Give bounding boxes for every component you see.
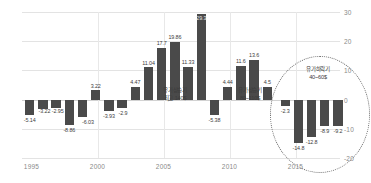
gridline-30 xyxy=(22,12,340,13)
y-axis-tick-minus10: -10 xyxy=(344,125,354,132)
gridline-10 xyxy=(22,70,340,71)
bar-2017 xyxy=(333,100,342,127)
bar-label-2000: -3.93 xyxy=(103,113,115,119)
bar-2012 xyxy=(263,87,272,100)
bar-label-2002: 4.47 xyxy=(130,79,140,85)
bar-label-1996: -2.95 xyxy=(52,108,64,114)
annotation-oil-rise-range-line1: 유가상승기 xyxy=(238,86,262,94)
annotation-oil-rise-peak-line2: 최고 140$ xyxy=(163,94,187,102)
bar-label-1999: 3.22 xyxy=(91,83,101,89)
bar-2008 xyxy=(210,100,219,116)
bar-label-2006: 11.33 xyxy=(182,59,195,65)
bar-label-2001: -2.9 xyxy=(119,110,128,116)
bar-label-2017: -9.2 xyxy=(334,128,343,134)
y-axis-tick-30: 30 xyxy=(344,9,352,16)
bar-2001 xyxy=(117,100,126,109)
bar-label-2015: -12.8 xyxy=(306,139,318,145)
y-axis-tick-minus20: -20 xyxy=(344,155,354,162)
bar-label-2012: 4.5 xyxy=(264,79,271,85)
bar-label-2016: -8.9 xyxy=(320,128,329,134)
bar-1997 xyxy=(65,100,74,126)
bar-2014 xyxy=(294,100,303,143)
y-axis-tick-10: 10 xyxy=(344,67,352,74)
bar-label-2004: 17.7 xyxy=(157,40,167,46)
gridline-20 xyxy=(22,41,340,42)
bar-2002 xyxy=(131,87,140,100)
annotation-oil-rise-peak-line1: 유가상승기 xyxy=(163,86,187,94)
gridline-minus20 xyxy=(22,158,340,159)
bar-label-2014: -14.8 xyxy=(292,145,304,151)
bar-label-2008: -5.38 xyxy=(209,117,221,123)
x-axis-tick-2015: 2015 xyxy=(288,163,303,170)
bar-label-2005: 19.86 xyxy=(168,34,181,40)
bar-label-1998: -6.03 xyxy=(82,119,94,125)
bar-label-1995: -3.22 xyxy=(39,108,51,114)
bar-2015 xyxy=(307,100,316,137)
bar-chart: -5.14 -3.22 -2.95 -8.86 -6.03 3.22 -3.93… xyxy=(0,0,371,183)
bar-2009 xyxy=(223,87,232,100)
x-axis-tick-2000: 2000 xyxy=(90,163,105,170)
bar-2000 xyxy=(104,100,113,112)
annotation-oil-rise-range-line2: 80~110$ xyxy=(238,94,262,102)
bar-label-1997: -8.86 xyxy=(63,127,75,133)
bar-label-2003: 11.04 xyxy=(142,60,155,66)
annotation-oil-rise-range: 유가상승기 80~110$ xyxy=(238,86,262,102)
bar-label-1994: -5.14 xyxy=(24,117,36,123)
bar-label-2010: 11.6 xyxy=(236,58,246,64)
bar-label-2013: -2.3 xyxy=(281,108,290,114)
bar-2013 xyxy=(281,100,290,107)
bar-1999 xyxy=(91,90,100,99)
annotation-oil-fall-range-line1: 유가하락기 xyxy=(306,65,330,73)
bar-2016 xyxy=(320,100,329,126)
annotation-oil-fall-range: 유가하락기 40~60$ xyxy=(306,65,330,81)
bar-label-2009: 4.44 xyxy=(223,79,233,85)
bar-label-2007: 29.3 xyxy=(196,15,206,21)
plot-area: -5.14 -3.22 -2.95 -8.86 -6.03 3.22 -3.93… xyxy=(22,12,340,158)
bar-1994 xyxy=(25,100,34,115)
bar-2003 xyxy=(144,67,153,99)
x-axis-tick-1995: 1995 xyxy=(24,163,39,170)
y-axis-tick-20: 20 xyxy=(344,38,352,45)
bar-2007 xyxy=(197,14,206,100)
vline-2010 xyxy=(230,12,231,158)
bar-1998 xyxy=(78,100,87,118)
x-axis-tick-2005: 2005 xyxy=(156,163,171,170)
annotation-oil-fall-range-line2: 40~60$ xyxy=(306,73,330,81)
bar-label-2011: 13.6 xyxy=(249,52,259,58)
x-axis-tick-2010: 2010 xyxy=(222,163,237,170)
y-axis-tick-0: 0 xyxy=(344,96,348,103)
annotation-oil-rise-peak: 유가상승기 최고 140$ xyxy=(163,86,187,102)
